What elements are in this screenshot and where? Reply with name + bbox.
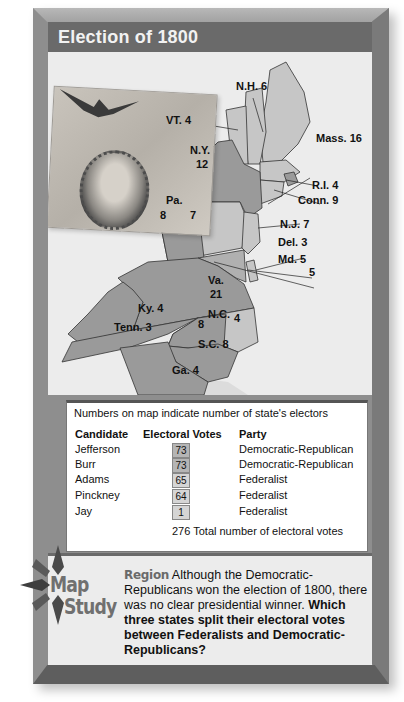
label-ga: Ga. 4 [172, 364, 199, 376]
table-row: Burr 73 Democratic-Republican [0, 458, 404, 474]
map-area: N.H. 6 VT. 4 Mass. 16 N.Y. 12 R.I. 4 Con… [48, 52, 372, 395]
state-mass-maine [260, 62, 310, 162]
region-label: Region [124, 568, 169, 582]
label-md: Md. 5 [278, 253, 306, 265]
label-nc: N.C. [208, 308, 230, 320]
party-name: Federalist [239, 489, 287, 501]
state-nj [242, 212, 260, 254]
electoral-votes: 73 [172, 443, 190, 458]
label-del: Del. 3 [278, 236, 307, 248]
label-md-second: 5 [309, 266, 315, 278]
electoral-votes: 73 [172, 458, 190, 473]
map-study-word-map: Map [50, 573, 89, 597]
table-row: Jay 1 Federalist [0, 505, 404, 521]
legend-note: Numbers on map indicate number of state'… [74, 407, 328, 419]
label-ny: N.Y. [190, 144, 210, 156]
candidate-name: Burr [75, 458, 96, 470]
candidate-name: Jefferson [75, 443, 120, 455]
party-name: Federalist [239, 505, 287, 517]
label-ny-electors: 12 [196, 158, 208, 170]
electoral-votes: 65 [172, 473, 190, 488]
map-study-logo: Map Study [20, 545, 125, 625]
eagle-icon [53, 87, 144, 122]
label-va: Va. [208, 274, 224, 286]
label-conn: Conn. 9 [298, 194, 338, 206]
frame-bevel-bottom [33, 665, 389, 684]
map-study-word-study: Study [64, 595, 116, 619]
party-name: Federalist [239, 473, 287, 485]
frame-bevel-right [372, 8, 389, 684]
candidate-name: Adams [75, 473, 109, 485]
label-ky: Ky. 4 [138, 302, 163, 314]
label-nh: N.H. 6 [236, 80, 267, 92]
label-nj: N.J. 7 [280, 218, 309, 230]
label-pa: Pa. [166, 194, 183, 206]
jefferson-portrait [77, 148, 151, 232]
electoral-votes: 64 [172, 489, 190, 504]
frame-bevel-top [33, 8, 389, 22]
label-nc-right: 4 [234, 312, 240, 324]
party-name: Democratic-Republican [239, 443, 353, 455]
label-pa-left: 8 [160, 209, 166, 221]
map-title: Election of 1800 [58, 27, 198, 48]
table-row: Pinckney 64 Federalist [0, 489, 404, 505]
label-ri: R.I. 4 [312, 179, 338, 191]
header-candidate: Candidate [75, 428, 128, 440]
candidate-name: Pinckney [75, 489, 120, 501]
label-pa-right: 7 [190, 209, 196, 221]
candidate-name: Jay [75, 505, 92, 517]
header-votes: Electoral Votes [143, 428, 222, 440]
label-tenn: Tenn. 3 [114, 321, 152, 333]
label-va-electors: 21 [210, 288, 222, 300]
electoral-votes: 1 [172, 505, 190, 520]
label-mass: Mass. 16 [316, 132, 362, 144]
label-sc: S.C. 8 [198, 338, 229, 350]
total-electoral-votes: 276 Total number of electoral votes [172, 525, 343, 537]
label-vt: VT. 4 [166, 114, 191, 126]
table-row: Adams 65 Federalist [0, 473, 404, 489]
party-name: Democratic-Republican [239, 458, 353, 470]
map-study-text: Region Although the Democratic-Republica… [124, 568, 374, 658]
label-nc-left: 8 [198, 318, 204, 330]
table-row: Jefferson 73 Democratic-Republican [0, 443, 404, 459]
header-party: Party [239, 428, 267, 440]
